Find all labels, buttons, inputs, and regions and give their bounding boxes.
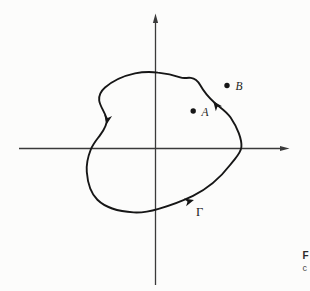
point-a-label: A bbox=[201, 106, 210, 118]
caption-fragment-line1: F bbox=[303, 250, 309, 261]
y-axis bbox=[153, 14, 158, 286]
x-axis bbox=[19, 146, 290, 151]
x-axis-arrow-icon bbox=[280, 146, 290, 151]
point-a-dot bbox=[191, 108, 196, 113]
curve-direction-arrow-left-icon bbox=[103, 115, 112, 126]
curve-gamma-label: Γ bbox=[196, 205, 203, 219]
y-axis-arrow-icon bbox=[153, 14, 158, 24]
point-b-dot bbox=[224, 83, 229, 88]
curve-gamma-path bbox=[87, 72, 242, 212]
caption-fragment-line2: c bbox=[303, 263, 308, 273]
point-b-label: B bbox=[236, 80, 243, 92]
contour-diagram-svg: A B Γ F c bbox=[0, 0, 310, 291]
contour-figure: A B Γ F c bbox=[0, 0, 310, 291]
